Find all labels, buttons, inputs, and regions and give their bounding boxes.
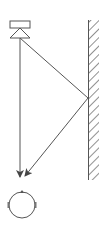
- wall-icon: [89, 20, 100, 180]
- sound-reflection-diagram: [0, 0, 111, 234]
- listener-head-icon: [8, 190, 37, 218]
- speaker-icon: [10, 21, 30, 38]
- reflected-path-arrow: [20, 38, 88, 176]
